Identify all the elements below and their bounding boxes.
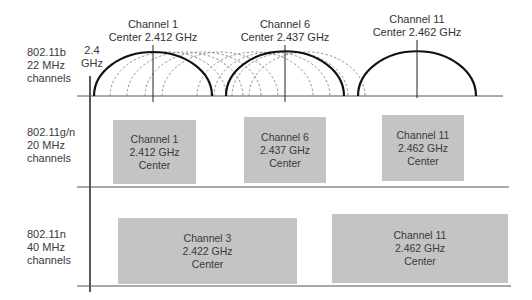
row-label-line: 40 MHz (27, 241, 71, 254)
box-line: Channel 11 (397, 129, 450, 142)
n40-channel-box-11: Channel 11 2.462 GHz Center (332, 214, 508, 283)
box-line: Center (407, 155, 439, 168)
channel-title: Channel 6 (220, 18, 350, 31)
channel-center: Center 2.412 GHz (88, 31, 218, 44)
box-line: 2.422 GHz (182, 245, 232, 258)
box-line: Center (269, 157, 301, 170)
axis-label-line: GHz (81, 57, 103, 70)
channel-heading-11: Channel 11 Center 2.462 GHz (352, 13, 482, 39)
channel-center: Center 2.437 GHz (220, 31, 350, 44)
channel-title: Channel 11 (352, 13, 482, 26)
row-label-line: 802.11n (27, 228, 71, 241)
row-label-802-11gn: 802.11g/n 20 MHz channels (27, 126, 75, 165)
box-line: Channel 1 (131, 133, 179, 146)
box-line: 2.437 GHz (260, 144, 310, 157)
gn-channel-box-1: Channel 1 2.412 GHz Center (113, 120, 196, 184)
row-label-line: channels (27, 254, 71, 267)
channel-title: Channel 1 (88, 18, 218, 31)
channel-center: Center 2.462 GHz (352, 26, 482, 39)
row-label-line: 802.11b (27, 46, 71, 59)
box-line: Center (404, 255, 436, 268)
axis-start-label: 2.4 GHz (81, 44, 103, 70)
row-label-802-11n: 802.11n 40 MHz channels (27, 228, 71, 267)
box-line: Center (139, 159, 171, 172)
box-line: 2.412 GHz (129, 146, 179, 159)
box-line: Channel 6 (261, 131, 309, 144)
overlapping-channel-arcs (110, 52, 365, 96)
row-label-line: channels (27, 152, 75, 165)
center-markers (153, 40, 417, 102)
gn-channel-box-11: Channel 11 2.462 GHz Center (382, 115, 464, 181)
box-line: 2.462 GHz (398, 142, 448, 155)
row-label-line: 22 MHz (27, 59, 71, 72)
row-label-line: 20 MHz (27, 139, 75, 152)
row-label-802-11b: 802.11b 22 MHz channels (27, 46, 71, 85)
box-line: Channel 3 (184, 232, 232, 245)
box-line: Center (192, 258, 224, 271)
box-line: 2.462 GHz (395, 242, 445, 255)
channel-heading-6: Channel 6 Center 2.437 GHz (220, 18, 350, 44)
n40-channel-box-3: Channel 3 2.422 GHz Center (118, 218, 297, 284)
axis-label-line: 2.4 (81, 44, 103, 57)
box-line: Channel 11 (394, 229, 447, 242)
row-label-line: channels (27, 72, 71, 85)
row-label-line: 802.11g/n (27, 126, 75, 139)
channel-heading-1: Channel 1 Center 2.412 GHz (88, 18, 218, 44)
gn-channel-box-6: Channel 6 2.437 GHz Center (244, 117, 326, 183)
